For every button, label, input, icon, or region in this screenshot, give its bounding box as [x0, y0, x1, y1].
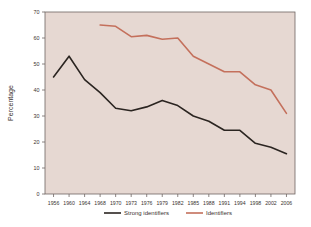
- x-tick-label: 1960: [63, 200, 75, 206]
- x-tick-label: 1979: [156, 200, 168, 206]
- x-tick-label: 1973: [125, 200, 137, 206]
- y-axis-title: Percentage: [7, 85, 15, 121]
- y-tick-label: 30: [34, 113, 40, 119]
- y-axis-ticks: 010203040506070: [34, 9, 46, 197]
- y-tick-label: 70: [34, 9, 40, 15]
- chart-container: 010203040506070 195619601964196819701973…: [0, 0, 311, 227]
- x-tick-label: 1982: [172, 200, 184, 206]
- x-axis-ticks: 1956196019641968197019731976197919821985…: [48, 194, 293, 206]
- x-tick-label: 1956: [48, 200, 60, 206]
- x-tick-label: 1968: [94, 200, 106, 206]
- y-tick-label: 10: [34, 165, 40, 171]
- chart-legend: Strong identifiersIdentifiers: [104, 210, 232, 216]
- x-tick-label: 2006: [281, 200, 293, 206]
- legend-label: Strong identifiers: [124, 210, 169, 216]
- x-tick-label: 1970: [110, 200, 122, 206]
- legend-item[interactable]: Identifiers: [186, 210, 232, 216]
- legend-label: Identifiers: [206, 210, 232, 216]
- x-tick-label: 1988: [203, 200, 215, 206]
- line-chart: 010203040506070 195619601964196819701973…: [0, 0, 311, 227]
- x-tick-label: 1976: [141, 200, 153, 206]
- x-tick-label: 1998: [250, 200, 262, 206]
- legend-item[interactable]: Strong identifiers: [104, 210, 169, 216]
- y-tick-label: 40: [34, 87, 40, 93]
- x-tick-label: 1994: [234, 200, 246, 206]
- x-tick-label: 1985: [188, 200, 200, 206]
- x-tick-label: 1964: [79, 200, 91, 206]
- x-tick-label: 1991: [219, 200, 231, 206]
- y-tick-label: 60: [34, 35, 40, 41]
- y-tick-label: 50: [34, 61, 40, 67]
- y-tick-label: 20: [34, 139, 40, 145]
- x-tick-label: 2002: [265, 200, 277, 206]
- y-tick-label: 0: [37, 191, 40, 197]
